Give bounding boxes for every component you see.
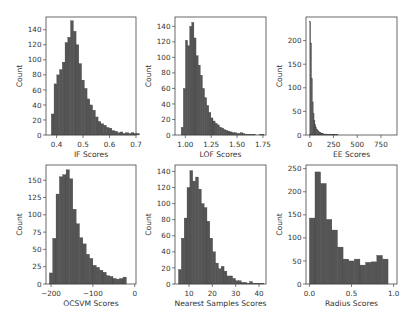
y-tick-label: 100 bbox=[288, 233, 302, 242]
histogram-bars bbox=[310, 22, 338, 135]
x-axis-label: Nearest Samples Scores bbox=[174, 299, 266, 308]
y-tick-label: 60 bbox=[161, 84, 171, 93]
histogram-bar bbox=[204, 208, 207, 284]
histogram-bars bbox=[179, 171, 264, 284]
histogram-bar bbox=[354, 259, 360, 284]
histogram-bar bbox=[106, 276, 109, 284]
histogram-bar bbox=[51, 114, 54, 135]
histogram-bar bbox=[90, 258, 93, 284]
histogram-bar bbox=[235, 281, 238, 284]
histogram-bar bbox=[213, 121, 215, 135]
histogram-bar bbox=[207, 221, 210, 284]
histogram-bar bbox=[82, 80, 85, 135]
y-tick-label: 150 bbox=[288, 210, 302, 219]
histogram-bar bbox=[106, 127, 109, 135]
y-tick-label: 0 bbox=[37, 131, 42, 140]
histogram-bar bbox=[93, 110, 96, 135]
histogram-bar bbox=[218, 269, 221, 284]
subplot-ocsvm-scores: 0255075100125150 −200−1000 OCSVM Scores … bbox=[15, 165, 137, 308]
x-tick-label: 0.0 bbox=[304, 289, 316, 298]
histogram-bar bbox=[184, 218, 187, 284]
subplot-ee-scores: 050100150200 0250500750 EE Scores Count bbox=[275, 17, 397, 159]
y-tick-label: 40 bbox=[161, 100, 171, 109]
histogram-bar bbox=[196, 56, 198, 135]
x-tick-label: 1.75 bbox=[255, 140, 271, 149]
histogram-bar bbox=[201, 204, 204, 284]
histogram-bar bbox=[198, 65, 200, 135]
histogram-bar bbox=[315, 172, 321, 284]
x-axis-label: Radius Scores bbox=[325, 299, 378, 308]
histogram-bar bbox=[228, 131, 230, 135]
histogram-bar bbox=[224, 271, 227, 284]
histogram-bar bbox=[83, 244, 86, 284]
x-tick-label: 0.5 bbox=[77, 140, 88, 149]
y-tick-label: 150 bbox=[28, 176, 42, 185]
histogram-bar bbox=[216, 263, 219, 284]
histogram-bar bbox=[366, 262, 372, 284]
y-tick-label: 50 bbox=[32, 245, 42, 254]
y-axis-ticks: 0255075100125150 bbox=[28, 176, 46, 289]
histogram-bar bbox=[59, 177, 62, 284]
y-tick-label: 20 bbox=[161, 264, 171, 273]
x-tick-label: 0.4 bbox=[51, 140, 63, 149]
histogram-bar bbox=[110, 276, 113, 284]
histogram-bar bbox=[332, 230, 338, 284]
x-axis-label: LOF Scores bbox=[200, 150, 242, 159]
y-tick-label: 100 bbox=[157, 53, 171, 62]
histogram-bar bbox=[63, 175, 66, 284]
histogram-bar bbox=[224, 130, 226, 135]
x-tick-label: −200 bbox=[41, 289, 61, 298]
y-axis-ticks: 050100150200 bbox=[288, 36, 306, 139]
y-tick-label: 150 bbox=[288, 60, 302, 69]
histogram-bar bbox=[343, 259, 349, 284]
histogram-bar bbox=[200, 75, 202, 135]
histogram-bars bbox=[51, 21, 139, 135]
histogram-bar bbox=[360, 265, 366, 284]
histogram-bar bbox=[337, 247, 343, 284]
histogram-bar bbox=[382, 259, 388, 284]
histogram-bars bbox=[309, 172, 388, 284]
x-axis-ticks: 0250500750 bbox=[308, 135, 389, 149]
x-tick-label: 1.25 bbox=[203, 140, 219, 149]
histogram-bar bbox=[215, 123, 217, 135]
histogram-bar bbox=[221, 128, 223, 135]
y-tick-label: 0 bbox=[37, 280, 42, 289]
histogram-bar bbox=[238, 281, 241, 284]
histogram-bar bbox=[209, 112, 211, 135]
histogram-bar bbox=[73, 209, 76, 284]
x-tick-label: 20 bbox=[208, 289, 218, 298]
histogram-bar bbox=[113, 278, 116, 284]
histogram-bar bbox=[205, 98, 207, 135]
y-tick-label: 0 bbox=[297, 280, 302, 289]
histogram-bar bbox=[56, 194, 59, 284]
y-tick-label: 120 bbox=[28, 40, 42, 49]
x-tick-label: 0.5 bbox=[346, 289, 357, 298]
histogram-bar bbox=[198, 189, 201, 284]
histogram-bar bbox=[217, 125, 219, 135]
y-tick-label: 200 bbox=[288, 187, 302, 196]
histogram-bar bbox=[185, 40, 187, 135]
histogram-bar bbox=[60, 70, 63, 135]
axes-frame bbox=[306, 17, 397, 135]
histogram-bar bbox=[109, 128, 112, 135]
x-tick-label: 30 bbox=[231, 289, 241, 298]
histogram-bar bbox=[98, 121, 101, 135]
y-axis-label: Count bbox=[275, 65, 284, 88]
x-tick-label: 1.00 bbox=[177, 140, 193, 149]
subplot-lof-scores: 020406080100120140 1.001.251.501.75 LOF … bbox=[144, 17, 271, 159]
y-axis-ticks: 050100150200250 bbox=[288, 164, 306, 288]
histogram-bar bbox=[86, 254, 89, 284]
y-tick-label: 60 bbox=[32, 86, 42, 95]
y-tick-label: 20 bbox=[32, 116, 42, 125]
histogram-bar bbox=[193, 181, 196, 284]
histogram-bar bbox=[137, 134, 140, 136]
y-tick-label: 40 bbox=[161, 247, 171, 256]
histogram-bar bbox=[211, 118, 213, 135]
histogram-bar bbox=[68, 37, 71, 135]
y-axis-label: Count bbox=[275, 213, 284, 236]
histogram-bar bbox=[181, 127, 183, 135]
histogram-bar bbox=[371, 262, 377, 284]
histogram-bar bbox=[194, 38, 196, 135]
histogram-bar bbox=[202, 88, 204, 135]
y-tick-label: 80 bbox=[32, 70, 42, 79]
